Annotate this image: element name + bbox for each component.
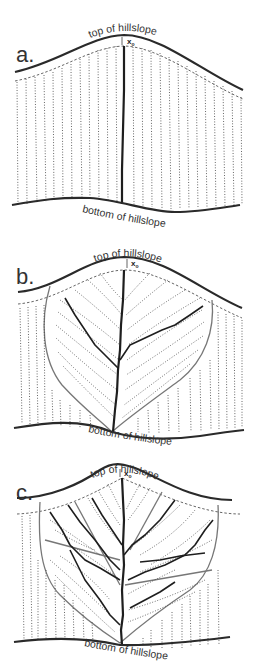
- top-of-hillslope-label-a: top of hillslope: [86, 21, 158, 40]
- dashed-boundary-b: [18, 270, 242, 318]
- drainage-basin-outline-b: [44, 286, 212, 432]
- drainage-basin-outline-c: [39, 502, 218, 643]
- dashed-boundary-c: [17, 478, 240, 514]
- panel-label-a: a.: [16, 42, 34, 67]
- main-channel-c: [121, 478, 124, 645]
- bottom-of-hillslope-label-c: bottom of hillslope: [84, 636, 169, 661]
- tributary-c-1: [50, 512, 120, 580]
- svg-text:xo: xo: [127, 37, 135, 47]
- main-channel-b: [113, 270, 124, 432]
- ridge-line-b: [18, 257, 242, 308]
- tributary-c-6: [128, 520, 213, 580]
- panel-b: b. top of hillslope: [14, 246, 244, 447]
- tributary-c-4: [92, 498, 122, 545]
- panel-label-b: b.: [16, 264, 34, 289]
- base-line-a: [12, 198, 240, 212]
- bottom-of-hillslope-label-b: bottom of hillslope: [88, 422, 173, 447]
- hillslope-channel-diagram: a. top of hillslope xo bottom of hillslo…: [0, 0, 259, 671]
- panel-label-c: c.: [16, 480, 33, 505]
- x0-marker-b: xo: [127, 259, 139, 269]
- tributary-left-b: [65, 298, 118, 368]
- panel-c: c. top of hillslope: [14, 462, 240, 661]
- outer-flow-lines-b: [20, 305, 242, 433]
- svg-text:xo: xo: [131, 259, 139, 269]
- tributary-c-8: [130, 582, 175, 608]
- x0-marker-a: xo: [122, 37, 135, 47]
- bottom-of-hillslope-label-a: bottom of hillslope: [82, 202, 167, 229]
- panel-a: a. top of hillslope xo bottom of hillslo…: [12, 21, 243, 229]
- main-channel-a: [122, 46, 124, 204]
